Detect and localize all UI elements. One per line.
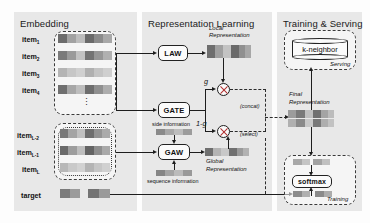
multiply-node-gated-local [217,83,230,96]
arrowhead-gaw-in [153,150,157,154]
arrow-local-rep-to-mul [223,58,224,80]
select-label: (select) [240,131,258,137]
item-label-L: itemL [22,165,40,175]
final-representation-label-line2: Representation [289,99,330,105]
training-target-bar-a [293,191,310,197]
embedding-bar-L-2 [60,129,110,138]
k-neighbor-label: k-neighbor [292,45,348,54]
k-neighbor-store[interactable]: k-neighbor [292,38,348,60]
item-label-L-1: itemL-1 [17,148,39,158]
final-representation-bar-bottom [288,119,334,127]
embedding-bar-1 [58,34,112,43]
target-label: target [21,191,41,200]
arrowhead-side-info [172,140,176,144]
embedding-bar-3 [58,68,112,77]
gaw-box[interactable]: GAW [158,144,190,160]
arrow-law-to-local-rep [188,53,202,54]
final-representation-label-line1: Final [289,91,302,97]
arrowhead-mul-bot-up [226,136,230,140]
arrow-target-to-training-h [110,194,290,195]
side-information-label: side information [152,121,190,127]
figure-canvas: Embedding Representation Learning Traini… [0,0,370,223]
arrow-gate-to-mul-bot-v [205,110,206,132]
sequence-information-bar [156,170,192,176]
gate-weight-g-label: g [204,77,208,86]
arrow-final-rep-to-knn [311,70,312,110]
arrow-gate-out-h [190,110,206,111]
global-representation-label-line1: Global [206,158,223,164]
target-bar-a [60,189,80,198]
item-label-4: item4 [22,86,39,96]
serving-label: Serving [330,61,350,67]
panel-title-training-serving: Training & Serving [283,18,363,29]
embedding-bar-2 [58,51,112,60]
embedding-bar-L [60,163,110,172]
item-label-L-2: itemL-2 [17,131,39,141]
item-label-3: item3 [22,69,39,79]
arrow-global-rep-to-mul [228,139,229,149]
training-logits-bar-a [293,159,310,165]
training-label: Training [327,196,348,202]
global-representation-bar [205,148,249,156]
arrowhead-mul-bot-left [212,129,216,133]
arrow-embed-to-gate-v [116,53,117,111]
concat-path-top-h [230,89,266,90]
item-label-1: item1 [22,35,39,45]
training-logits-bar-b [313,159,330,165]
arrow-gate-to-mul-top-v [205,89,206,110]
select-path-v [265,138,266,194]
sequence-information-label: sequence information [147,178,199,184]
global-representation-label-line2: Representation [206,166,247,172]
concat-label: (concat) [240,103,259,109]
embedding-bar-L-1 [60,146,110,155]
local-representation-label-line2: Representation [209,32,250,38]
panel-title-representation-learning: Representation Learning [148,18,254,29]
law-box[interactable]: LAW [158,45,188,61]
arrow-embed-to-gate-h [116,110,154,111]
k-neighbor-cylinder-top [292,38,348,44]
arrowhead-knn-in [309,67,313,71]
arrow-final-rep-to-training [311,127,312,153]
local-representation-bar [207,45,251,58]
arrowhead-mul-top-left [212,87,216,91]
arrow-sequence-info-to-gaw [174,163,175,170]
concat-path-v [265,89,266,131]
arrow-embed-top-to-law [116,53,154,54]
arrow-embed-bottom-to-gaw [116,152,154,153]
item-label-2: item2 [22,52,39,62]
arrowhead-gate-in [153,108,157,112]
embedding-ellipsis: ⋮ [82,97,91,107]
final-representation-bar-top [288,110,334,118]
local-representation-label-line1: Local [209,25,223,31]
gate-box[interactable]: GATE [158,102,190,118]
concat-to-final-rep [265,117,287,118]
embedding-bar-4 [58,85,112,94]
arrowhead-law-in [153,51,157,55]
k-neighbor-cylinder-bottom [292,54,348,60]
arrowhead-global-rep [201,150,205,154]
target-bar-b [88,189,110,198]
panel-title-embedding: Embedding [20,18,69,29]
arrowhead-local-rep [202,51,206,55]
arrowhead-sequence-info [172,160,176,164]
